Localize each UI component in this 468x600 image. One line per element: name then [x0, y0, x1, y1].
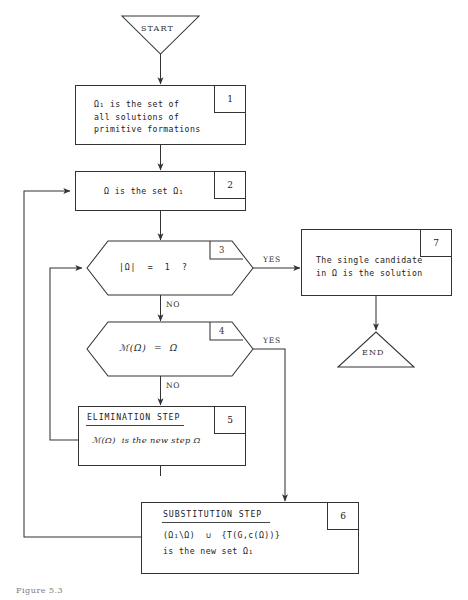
box-number-6: 6 — [327, 503, 358, 530]
process-box-2-line-1: Ω is the set Ω₁ — [104, 185, 184, 198]
edge-loop-box6-box2 — [24, 191, 141, 537]
process-box-7-line-2: in Ω is the solution — [316, 267, 423, 280]
decision-4-text: ℳ(Ω) = Ω — [119, 343, 178, 353]
process-box-6-header-rule — [162, 522, 270, 523]
process-box-1-line-1: Ω₁ is the set of — [94, 98, 179, 111]
figure-caption: Figure 5.3 — [16, 586, 63, 597]
edge-label-no-1: NO — [166, 300, 180, 309]
end-label: END — [362, 348, 385, 357]
process-box-5-line-1: ℳ(Ω) is the new step Ω — [92, 434, 201, 447]
decision-3-number: 3 — [219, 245, 225, 255]
decision4-number-notch — [210, 322, 243, 340]
decision3-number-notch — [210, 241, 243, 259]
process-box-1-line-3: primitive formations — [94, 123, 201, 136]
process-box-6-line-1: (Ω₁\Ω) ∪ {T(G,c(Ω))} — [163, 529, 280, 542]
edge-label-yes-2: YES — [263, 336, 281, 345]
process-box-6-header: SUBSTITUTION STEP — [163, 509, 262, 519]
edge-label-no-2: NO — [166, 381, 180, 390]
process-box-7-line-1: The single candidate — [316, 254, 423, 267]
start-label: START — [141, 24, 174, 33]
flowchart-canvas: START 1 Ω₁ is the set of all solutions o… — [0, 0, 468, 600]
process-box-5-header: ELIMINATION STEP — [87, 412, 180, 422]
process-box-5-header-rule — [86, 425, 184, 426]
start-shape — [122, 16, 199, 54]
box-number-7: 7 — [420, 230, 451, 257]
box-number-5: 5 — [214, 407, 245, 434]
decision-3-text: |Ω| = 1 ? — [119, 262, 188, 272]
process-box-6-line-2: is the new set Ω₁ — [163, 545, 254, 558]
decision-4-number: 4 — [219, 326, 225, 336]
edge-label-yes-1: YES — [263, 255, 281, 264]
process-box-1-line-2: all solutions of — [94, 111, 179, 124]
box-number-2: 2 — [214, 172, 245, 199]
edge-dec4-box6 — [253, 349, 285, 501]
box-number-1: 1 — [214, 86, 245, 113]
